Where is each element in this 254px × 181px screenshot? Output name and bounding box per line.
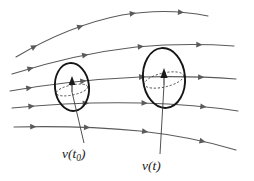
- label-v-t-text: v(t): [142, 158, 161, 173]
- label-t0-close-paren: ): [80, 146, 86, 161]
- flow-field-canvas: v(t0) v(t): [0, 0, 254, 181]
- figure-background: [0, 0, 254, 181]
- label-v-t0: v(t0): [62, 146, 86, 163]
- flow-field-figure: v(t0) v(t): [0, 0, 254, 181]
- label-v-t: v(t): [142, 158, 161, 173]
- label-t-close-paren: ): [155, 158, 161, 173]
- label-v-t0-text: v(t0): [62, 146, 86, 163]
